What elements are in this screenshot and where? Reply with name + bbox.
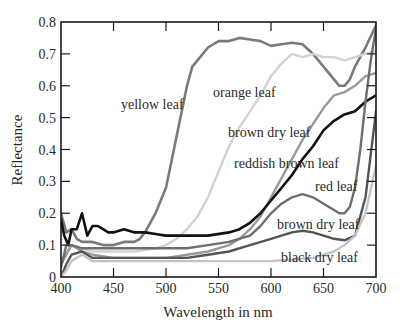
series-label: brown dry leaf: [277, 217, 360, 232]
series-label: orange leaf: [213, 85, 276, 100]
y-tick-label: 0.2: [39, 206, 57, 221]
y-tick-label: 0.4: [39, 143, 57, 158]
y-tick-label: 0.3: [39, 174, 57, 189]
series-label: black dry leaf: [281, 250, 358, 265]
y-tick-label: 0.7: [39, 47, 57, 62]
series-label: brown dry leaf: [228, 125, 311, 140]
x-tick-label: 500: [156, 281, 177, 296]
y-tick-label: 0.5: [39, 111, 57, 126]
y-axis-title: Reflectance: [9, 114, 25, 185]
x-tick-label: 700: [366, 281, 387, 296]
y-tick-label: 0.6: [39, 79, 57, 94]
y-tick-label: 0: [49, 270, 56, 285]
series-label: yellow leaf: [121, 97, 184, 112]
plot-frame: [61, 22, 376, 277]
y-tick-label: 0.8: [39, 15, 57, 30]
x-tick-label: 600: [261, 281, 282, 296]
series-label: red leaf: [315, 179, 358, 194]
series-label: reddish brown leaf: [234, 156, 339, 171]
y-tick-label: 0.1: [39, 238, 57, 253]
x-tick-label: 650: [313, 281, 334, 296]
chart-canvas: 400450500550600650700 00.10.20.30.40.50.…: [0, 0, 403, 333]
reflectance-chart: 400450500550600650700 00.10.20.30.40.50.…: [0, 0, 403, 333]
series-layer: [61, 25, 376, 277]
x-axis-title: Wavelength in nm: [163, 304, 273, 320]
x-tick-label: 450: [103, 281, 124, 296]
x-tick-label: 550: [208, 281, 229, 296]
